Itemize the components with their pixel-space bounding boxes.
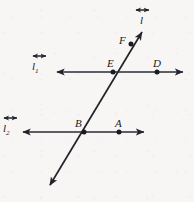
label-line-l2: l2 [3, 123, 10, 137]
label-point-E: E [107, 58, 114, 69]
transversal-line-l [50, 32, 142, 185]
geometry-diagram: l l1 l2 E D F B A [0, 0, 194, 202]
label-line-l-text: l [140, 14, 143, 26]
point-dot-F [129, 42, 134, 47]
point-dot-D [155, 70, 160, 75]
label-line-l1: l1 [32, 61, 39, 75]
label-line-l: l [140, 15, 143, 26]
label-point-F: F [119, 35, 126, 46]
point-dot-A [117, 130, 122, 135]
label-point-D: D [153, 58, 161, 69]
label-point-B: B [75, 118, 82, 129]
label-point-A: A [115, 118, 122, 129]
label-line-l1-sub: 1 [35, 67, 39, 75]
label-line-l2-sub: 2 [6, 129, 10, 137]
geometry-canvas [0, 0, 194, 202]
point-dot-E [111, 70, 116, 75]
point-dot-B [82, 130, 87, 135]
